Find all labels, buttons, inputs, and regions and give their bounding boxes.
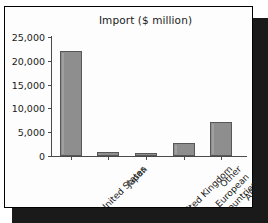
x-tick-label: Japan (125, 164, 151, 190)
bar (60, 51, 82, 156)
y-tick-mark (48, 108, 52, 109)
plot-area: 05,00010,00015,00020,00025,000 United St… (52, 37, 240, 156)
x-tick-mark (146, 156, 147, 160)
bar (173, 143, 195, 156)
y-tick-mark (48, 156, 52, 157)
y-tick-group: 25,000 (52, 37, 53, 38)
y-tick-label: 15,000 (12, 79, 45, 90)
bar (97, 152, 119, 156)
y-tick-mark (48, 132, 52, 133)
y-tick-group: 0 (52, 156, 53, 157)
y-tick-label: 10,000 (12, 103, 45, 114)
chart-title: Import ($ million) (5, 14, 252, 26)
y-tick-group: 15,000 (52, 85, 53, 86)
y-tick-label: 25,000 (12, 32, 45, 43)
y-tick-group: 20,000 (52, 61, 53, 62)
bar-highlight (175, 145, 177, 154)
bar-highlight (212, 124, 214, 154)
x-tick-mark (108, 156, 109, 160)
x-tick-mark (184, 156, 185, 160)
bar-highlight (62, 53, 64, 154)
x-tick-mark (71, 156, 72, 160)
y-tick-label: 20,000 (12, 55, 45, 66)
x-axis-line (51, 156, 247, 157)
x-tick-mark (221, 156, 222, 160)
y-tick-label: 5,000 (18, 127, 45, 138)
bar (135, 153, 157, 156)
y-tick-label: 0 (39, 151, 45, 162)
chart-card: Import ($ million) 05,00010,00015,00020,… (4, 6, 253, 208)
bar (210, 122, 232, 156)
y-tick-mark (48, 37, 52, 38)
y-tick-mark (48, 61, 52, 62)
y-tick-group: 10,000 (52, 108, 53, 109)
y-tick-group: 5,000 (52, 132, 53, 133)
chart-figure: Import ($ million) 05,00010,00015,00020,… (0, 0, 268, 223)
y-tick-mark (48, 85, 52, 86)
